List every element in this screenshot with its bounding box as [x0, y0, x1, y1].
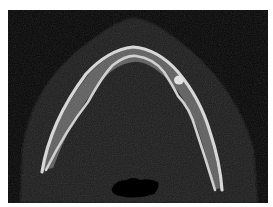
lesion — [174, 76, 184, 85]
mandible-ct-graphic — [8, 10, 268, 203]
ct-scan-image — [8, 10, 268, 203]
